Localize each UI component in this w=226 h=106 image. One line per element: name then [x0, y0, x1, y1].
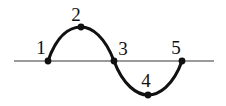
- point-label-3: 3: [118, 39, 128, 58]
- sine-curve-figure: 1 2 3 4 5: [0, 0, 226, 106]
- point-label-4: 4: [141, 71, 151, 90]
- point-label-1: 1: [36, 38, 46, 57]
- data-point-marker-3: [111, 58, 118, 65]
- data-point-marker-5: [179, 58, 186, 65]
- figure-canvas: [0, 0, 226, 106]
- data-point-marker-2: [78, 24, 85, 31]
- data-point-marker-4: [145, 92, 152, 99]
- data-point-marker-1: [45, 58, 52, 65]
- point-label-2: 2: [71, 5, 81, 24]
- point-label-5: 5: [171, 38, 181, 57]
